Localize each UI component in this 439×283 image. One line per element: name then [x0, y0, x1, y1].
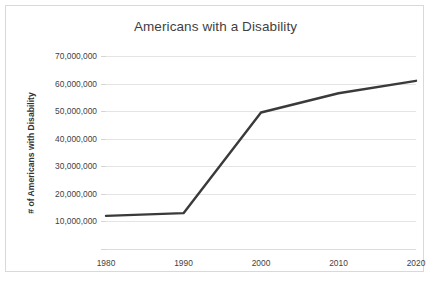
x-axis-tick-label: 2000 — [231, 258, 291, 268]
x-axis-tick-label: 2010 — [309, 258, 369, 268]
x-axis-tick-label: 1990 — [154, 258, 214, 268]
chart-container: Americans with a Disability # of America… — [5, 5, 424, 272]
data-series-layer — [6, 6, 425, 273]
x-axis-tick-label: 1980 — [76, 258, 136, 268]
line-series-americans-with-disability — [106, 81, 416, 216]
x-axis-tick-label: 2020 — [386, 258, 439, 268]
